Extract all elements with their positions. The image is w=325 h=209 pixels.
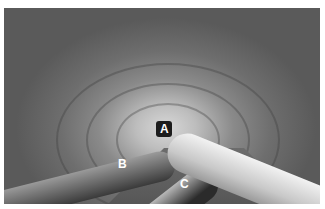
label-a: A (160, 123, 169, 135)
label-b: B (118, 158, 127, 170)
label-c: C (180, 178, 189, 190)
endoscopic-photo: A B C (4, 8, 320, 204)
